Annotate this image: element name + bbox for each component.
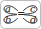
equals-sign: =: [17, 9, 25, 19]
tangle-diagram: a b c d =: [0, 0, 41, 29]
label-a: a: [5, 4, 11, 14]
label-c: c: [30, 4, 36, 14]
label-b: b: [5, 15, 11, 25]
label-d: d: [30, 15, 36, 25]
